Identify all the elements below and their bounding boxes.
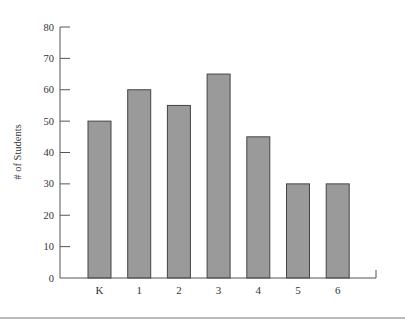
x-tick-label: 6 <box>335 284 341 296</box>
y-tick-label: 10 <box>44 241 55 252</box>
bar-1 <box>128 90 151 278</box>
x-tick-label: 4 <box>256 284 262 296</box>
y-tick-label: 70 <box>44 53 55 64</box>
y-tick-label: 30 <box>44 178 55 189</box>
y-axis-label: # of Students <box>12 124 23 179</box>
bar-K <box>88 121 111 278</box>
bar-5 <box>287 184 310 278</box>
x-tick-label: 3 <box>216 284 222 296</box>
bar-chart: 01020304050607080 K123456 # of Students <box>0 0 405 324</box>
bar-2 <box>167 105 190 278</box>
bars <box>88 74 349 278</box>
x-tick-label: 2 <box>176 284 182 296</box>
y-tick-label: 80 <box>44 22 55 33</box>
bar-4 <box>247 137 270 278</box>
x-tick-label: K <box>96 284 104 296</box>
x-tick-label: 1 <box>136 284 142 296</box>
y-tick-label: 0 <box>49 273 54 284</box>
bar-3 <box>207 74 230 278</box>
y-tick-label: 60 <box>44 84 55 95</box>
y-axis: 01020304050607080 <box>44 22 71 284</box>
y-tick-label: 20 <box>44 210 55 221</box>
y-tick-label: 50 <box>44 116 55 127</box>
x-tick-label: 5 <box>295 284 301 296</box>
y-tick-label: 40 <box>44 147 55 158</box>
bar-6 <box>326 184 349 278</box>
